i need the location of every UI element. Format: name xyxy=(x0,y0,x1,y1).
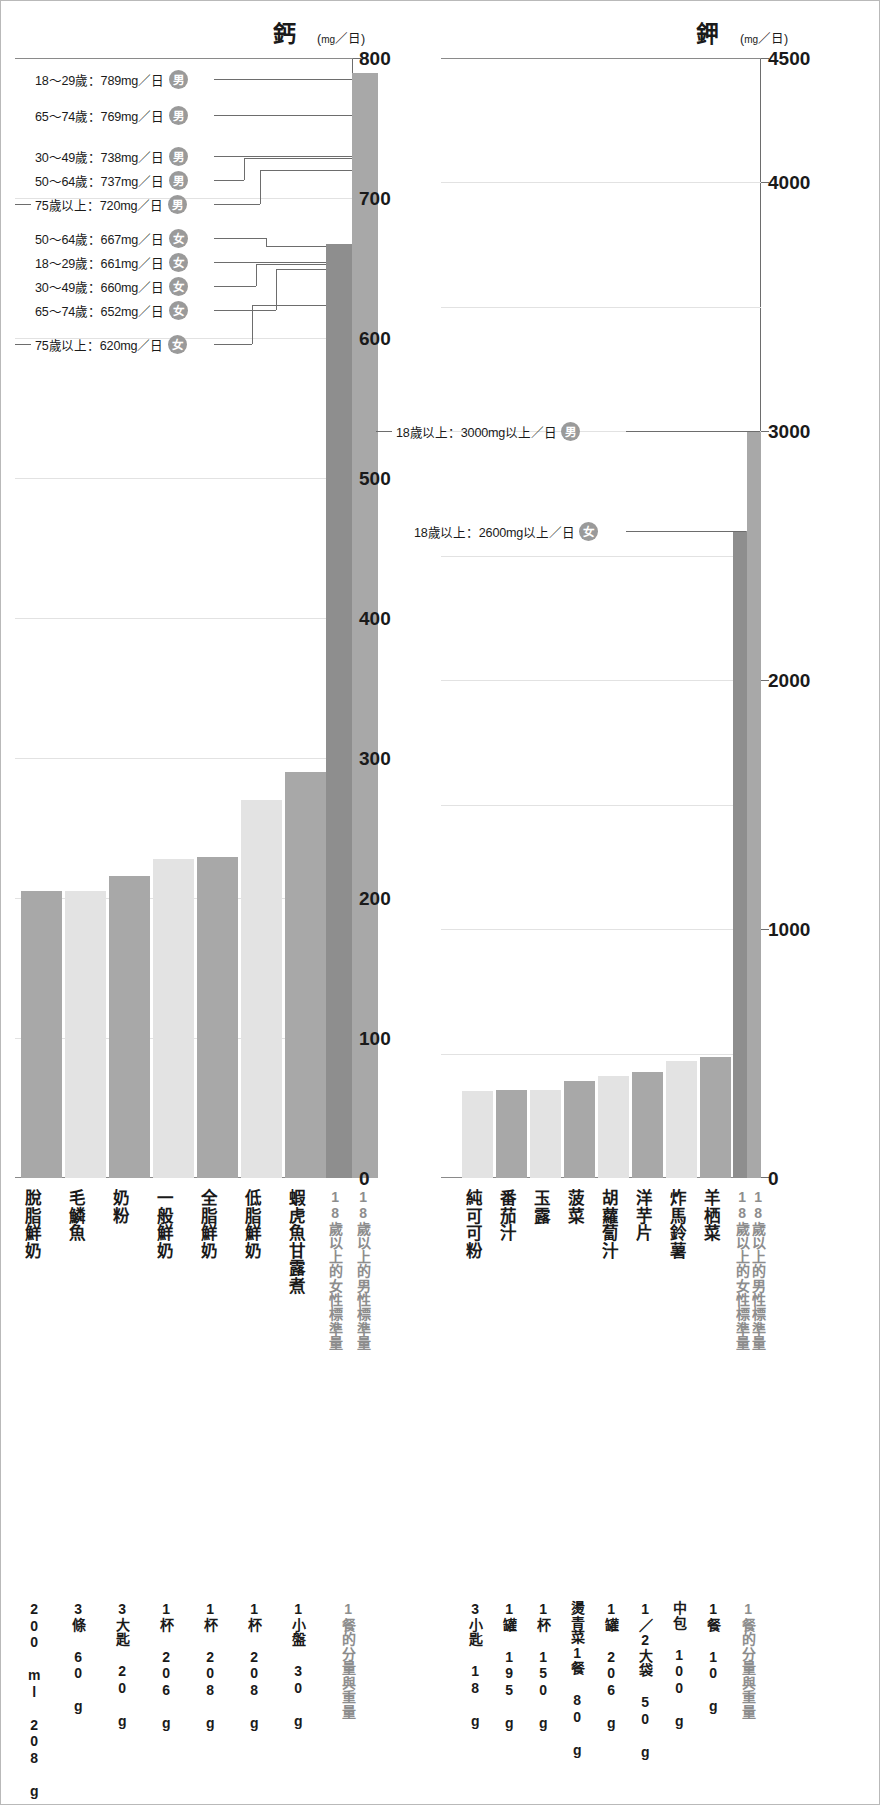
leader-dash-icon xyxy=(376,431,392,432)
leader-line-7b xyxy=(256,264,257,286)
annotation-calcium-7: 30〜49歲：660mg／日 女 xyxy=(15,277,188,295)
portion-4: 1杯 208 g xyxy=(203,1601,217,1731)
x-label-ref-female-p: 18歲以上的女性標準量 xyxy=(735,1189,749,1350)
leader-dash-icon xyxy=(15,115,31,116)
leader-line-0 xyxy=(214,79,352,80)
leader-line-9b xyxy=(252,305,253,344)
portion-5: 1杯 208 g xyxy=(247,1601,261,1731)
x-label-ref-male: 18歲以上的男性標準量 xyxy=(356,1189,370,1350)
leader-line-4b xyxy=(260,170,261,204)
gridline-1000 xyxy=(441,929,761,930)
leader-dash-icon xyxy=(15,79,31,80)
bar-calcium-0 xyxy=(21,891,62,1178)
ytick-label-4000: 4000 xyxy=(768,173,810,192)
annotation-calcium-6: 18〜29歲：661mg／日 女 xyxy=(15,253,188,271)
leader-line-4a xyxy=(214,204,260,205)
leader-line-9c xyxy=(252,305,326,306)
ytick-label-3000: 3000 xyxy=(768,422,810,441)
ytick-label-200: 200 xyxy=(359,889,391,908)
gridline-2000 xyxy=(441,680,761,681)
annotation-text: 30〜49歲：738mg／日 xyxy=(35,147,164,166)
leader-line-1 xyxy=(214,115,352,116)
sex-badge-male: 男 xyxy=(169,147,188,166)
annotation-text: 18〜29歲：661mg／日 xyxy=(35,253,164,272)
leader-line-3a xyxy=(214,180,244,181)
annotation-text: 65〜74歲：652mg／日 xyxy=(35,301,164,320)
x-label-0: 脫脂鮮奶 xyxy=(23,1189,40,1259)
portion-6: 1小盤 30 g xyxy=(291,1601,305,1729)
leader-dash-icon xyxy=(15,204,31,205)
annotation-potassium-0: 18歲以上：3000mg以上／日 男 xyxy=(376,422,580,440)
gridline-500 xyxy=(441,1054,761,1055)
portion-p3: 燙青菜1餐 80 g xyxy=(570,1601,584,1758)
portion-0: 200 ml 208 g xyxy=(27,1601,41,1799)
x-label-3: 一般鮮奶 xyxy=(155,1189,172,1259)
x-label-p3: 菠菜 xyxy=(566,1189,583,1224)
sex-badge-male: 男 xyxy=(169,70,188,89)
bar-potassium-6 xyxy=(666,1061,697,1178)
ytick-label-400: 400 xyxy=(359,609,391,628)
ytick-label-700: 700 xyxy=(359,189,391,208)
sex-badge-male: 男 xyxy=(168,195,187,214)
portion-p4: 1罐 206 g xyxy=(604,1601,618,1731)
leader-dash-icon xyxy=(15,156,31,157)
portion-1: 3條 60 g xyxy=(71,1601,85,1715)
annotation-calcium-4: 75歲以上：720mg／日 男 xyxy=(15,195,187,213)
portion-p6: 中包 100 g xyxy=(672,1601,686,1729)
chart-page: 鈣 (mg／日) xyxy=(0,0,880,1805)
unit-label-calcium: (mg／日) xyxy=(317,33,365,46)
annotation-calcium-3: 50〜64歲：737mg／日 男 xyxy=(15,171,188,189)
x-label-2: 奶粉 xyxy=(111,1189,128,1224)
gridline-400-minor xyxy=(15,618,353,619)
portion-ref-p: 1餐的分量與重量 xyxy=(741,1601,755,1719)
bar-calcium-1 xyxy=(65,891,106,1178)
gridline-4500 xyxy=(441,58,761,59)
leader-line-5b xyxy=(266,238,267,246)
annotation-calcium-0: 18〜29歲：789mg／日 男 xyxy=(15,70,188,88)
leader-dash-icon xyxy=(15,310,31,311)
bar-potassium-1 xyxy=(496,1090,527,1178)
ytick-label-0: 0 xyxy=(359,1169,370,1188)
panel-potassium: 鉀 (mg／日) xyxy=(441,1,880,1805)
portion-p0: 3小匙 18 g xyxy=(468,1601,482,1729)
bar-potassium-5 xyxy=(632,1072,663,1178)
x-label-ref-female: 18歲以上的女性標準量 xyxy=(328,1189,342,1350)
leader-dash-icon xyxy=(394,531,410,532)
ytick-label-500: 500 xyxy=(359,469,391,488)
leader-line-3b xyxy=(244,158,245,180)
leader-dash-icon xyxy=(15,238,31,239)
x-label-p6: 炸馬鈴薯 xyxy=(668,1189,685,1259)
leader-line-6 xyxy=(214,262,326,263)
ytick-label-800: 800 xyxy=(359,49,391,68)
ytick-label-300: 300 xyxy=(359,749,391,768)
leader-dash-icon xyxy=(15,344,31,345)
x-label-p4: 胡蘿蔔汁 xyxy=(600,1189,617,1259)
x-label-ref-male-p: 18歲以上的男性標準量 xyxy=(751,1189,765,1350)
unit-mg: mg xyxy=(321,34,335,45)
x-label-p5: 洋芋片 xyxy=(634,1189,651,1242)
gridline-2500 xyxy=(441,556,761,557)
leader-line-8a xyxy=(214,310,276,311)
chart-title-potassium: 鉀 xyxy=(696,23,720,46)
ytick-label-0-potassium: 0 xyxy=(768,1169,779,1188)
plot-area-calcium xyxy=(15,58,353,1178)
gridline-300-minor xyxy=(15,758,353,759)
plot-area-potassium xyxy=(441,58,761,1178)
portion-p7: 1餐 10 g xyxy=(706,1601,720,1715)
annotation-text: 75歲以上：620mg／日 xyxy=(35,335,163,354)
portion-2: 3大匙 20 g xyxy=(115,1601,129,1729)
portion-3: 1杯 206 g xyxy=(159,1601,173,1731)
annotation-text: 18歲以上：2600mg以上／日 xyxy=(414,522,574,541)
leader-line-9a xyxy=(214,344,252,345)
bar-calcium-4 xyxy=(197,857,238,1178)
portion-ref: 1餐的分量與重量 xyxy=(341,1601,355,1719)
x-label-1: 毛鱗魚 xyxy=(67,1189,84,1242)
annotation-text: 30〜49歲：660mg／日 xyxy=(35,277,164,296)
leader-line-p1 xyxy=(626,531,746,532)
sex-badge-male: 男 xyxy=(169,171,188,190)
annotation-text: 18〜29歲：789mg／日 xyxy=(35,70,164,89)
panel-calcium: 鈣 (mg／日) xyxy=(1,1,441,1805)
unit-mg: mg xyxy=(744,34,758,45)
ref-bar-calcium-female xyxy=(326,244,352,1178)
ytick-label-4500: 4500 xyxy=(768,49,810,68)
